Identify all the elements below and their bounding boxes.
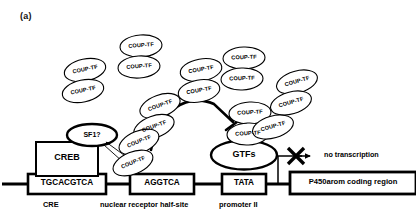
coup-tf-dimer-3-subunit-bottom: [176, 77, 221, 106]
coup-tf-dimer-2-subunit-top: [119, 34, 162, 59]
coup-tf-dimer-5-subunit-bottom: [268, 87, 314, 120]
coup-tf-dimer-4-subunit-bottom: [221, 67, 264, 90]
coup-tf-dimer-2-subunit-bottom: [117, 55, 160, 80]
diagram-canvas: [0, 0, 416, 220]
figure-panel-a: (a) TGCACGTCA AGGTCA TATA P450arom codin…: [0, 0, 416, 220]
coup-tf-dimer-4-subunit-top: [223, 46, 266, 69]
sf1-protein: [67, 124, 117, 146]
tata-box: [222, 174, 266, 194]
coup-tf-dimer-1-subunit-bottom: [60, 76, 106, 106]
nr-half-box: [130, 174, 194, 194]
coding-region-box: [290, 172, 416, 194]
coup-tf-cluster: [60, 34, 320, 182]
